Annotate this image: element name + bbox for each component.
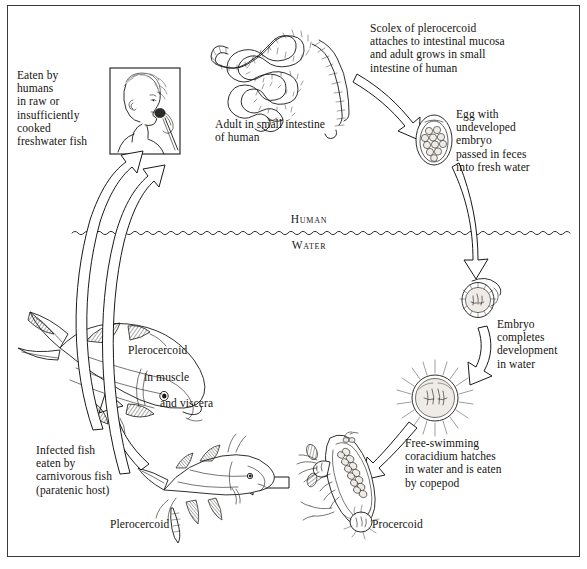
human-eating-panel-illustration (110, 68, 180, 154)
label-procercoid: Procercoid (372, 518, 472, 531)
copepod-with-procercoid-illustration (297, 432, 379, 539)
caption-plerocercoid-in-muscle-and-viscera: Plerocercoid in muscle and viscera (128, 331, 258, 423)
caption-infected-fish-eaten: Infected fish eaten by carnivorous fish … (36, 444, 158, 497)
caption-line-1: Plerocercoid (128, 344, 258, 357)
zone-label-human: Human (264, 213, 354, 226)
caption-eaten-by-humans: Eaten by humans in raw or insufficiently… (17, 69, 113, 148)
caption-egg-undeveloped-embryo: Egg with undeveloped embryo passed in fe… (456, 108, 584, 174)
caption-adult-in-intestine: Adult in small intestine of human (215, 118, 375, 144)
arrow-egg-to-embryo (452, 163, 488, 279)
caption-line-3: and viscera (128, 397, 258, 410)
egg-illustration (416, 115, 452, 165)
water-surface-line (72, 231, 570, 234)
embryo-in-shell-illustration (460, 278, 501, 317)
caption-scolex-attaches: Scolex of plerocercoid attaches to intes… (370, 22, 585, 75)
zone-label-water: Water (264, 239, 354, 252)
arrow-fish-to-human-inner (103, 165, 165, 474)
arrow-embryo-to-coracidium (468, 326, 492, 385)
caption-embryo-completes-development: Embryo completes development in water (497, 318, 583, 371)
life-cycle-figure: .ln { fill:none; stroke:#1b1916; stroke-… (0, 0, 587, 569)
label-plerocercoid: Plerocercoid (110, 518, 214, 531)
caption-line-2: in muscle (128, 371, 258, 384)
caption-coracidium-hatches: Free-swimming coracidium hatches in wate… (405, 437, 585, 490)
